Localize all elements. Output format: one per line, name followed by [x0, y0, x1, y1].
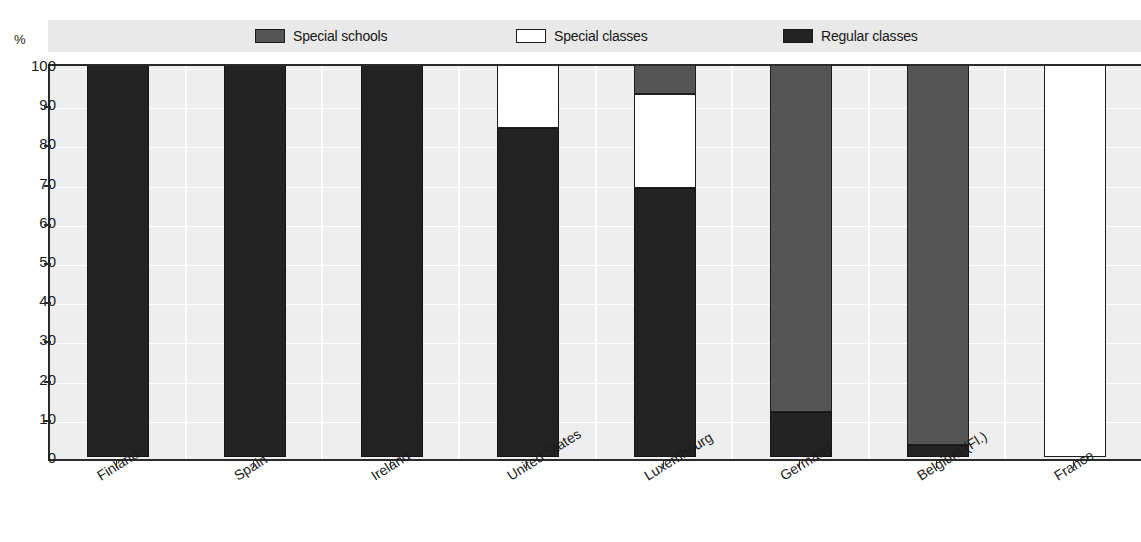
y-tick-label: 90: [16, 96, 56, 113]
y-tick-label: 40: [16, 292, 56, 309]
y-tick-mark: [44, 224, 51, 226]
bar-segment-special-schools[interactable]: [634, 65, 696, 94]
legend-label-special-schools: Special schools: [293, 28, 387, 44]
bar-united-states[interactable]: [497, 64, 559, 459]
gridline: [50, 383, 1141, 384]
y-tick-label: 80: [16, 135, 56, 152]
bar-segment-special-schools[interactable]: [770, 65, 832, 412]
bar-segment-regular[interactable]: [224, 65, 286, 457]
y-tick-mark: [44, 145, 51, 147]
gridline: [50, 226, 1141, 227]
bar-segment-special-schools[interactable]: [907, 65, 969, 445]
y-tick-mark: [44, 106, 51, 108]
legend-label-regular-classes: Regular classes: [821, 28, 918, 44]
legend-item-regular-classes: Regular classes: [783, 25, 918, 47]
gridline: [50, 69, 1141, 70]
gridline: [50, 187, 1141, 188]
y-tick-label: 10: [16, 410, 56, 427]
white-swatch-icon: [516, 29, 546, 43]
y-tick-mark: [44, 263, 51, 265]
y-tick-mark: [44, 341, 51, 343]
gridline: [50, 343, 1141, 344]
bar-segment-regular[interactable]: [634, 188, 696, 457]
y-tick-label: 30: [16, 331, 56, 348]
gridline: [50, 147, 1141, 148]
bar-segment-regular[interactable]: [87, 65, 149, 457]
bar-luxembourg[interactable]: [634, 64, 696, 459]
gray-swatch-icon: [255, 29, 285, 43]
y-tick-label: 60: [16, 214, 56, 231]
gridline: [50, 265, 1141, 266]
y-axis-unit-label: %: [14, 32, 26, 47]
gridline: [50, 304, 1141, 305]
bar-spain[interactable]: [224, 64, 286, 459]
bar-belgium-fl[interactable]: [907, 64, 969, 459]
bar-finland[interactable]: [87, 64, 149, 459]
bar-segment-special-classes[interactable]: [634, 94, 696, 188]
y-tick-label: 0: [16, 449, 56, 466]
y-tick-mark: [44, 302, 51, 304]
bar-segment-special-classes[interactable]: [497, 65, 559, 128]
y-tick-mark: [44, 420, 51, 422]
chart-title-sliver: [0, 0, 1141, 12]
y-tick-label: 100: [16, 57, 56, 74]
gridline: [50, 108, 1141, 109]
gridline: [50, 422, 1141, 423]
chart-legend: Special schools Special classes Regular …: [48, 20, 1141, 52]
legend-label-special-classes: Special classes: [554, 28, 648, 44]
bar-france[interactable]: [1044, 64, 1106, 459]
bar-ireland[interactable]: [361, 64, 423, 459]
y-tick-mark: [44, 185, 51, 187]
legend-item-special-schools: Special schools: [255, 25, 387, 47]
chart-plot-area: [48, 64, 1141, 461]
bar-germany[interactable]: [770, 64, 832, 459]
y-tick-mark: [44, 381, 51, 383]
black-swatch-icon: [783, 29, 813, 43]
y-tick-label: 70: [16, 175, 56, 192]
bar-segment-regular[interactable]: [361, 65, 423, 457]
y-tick-label: 50: [16, 253, 56, 270]
y-tick-label: 20: [16, 371, 56, 388]
legend-item-special-classes: Special classes: [516, 25, 648, 47]
bar-segment-regular[interactable]: [497, 128, 559, 457]
bar-segment-special-classes[interactable]: [1044, 65, 1106, 457]
